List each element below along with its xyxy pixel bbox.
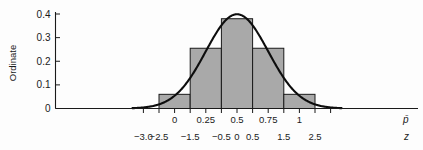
y-tick-label: 0 (45, 103, 51, 114)
x-axis-z-tick-labels: −3.0−2.5−1.5−0.500.51.52.5 (134, 131, 322, 142)
x-tick-label-z: 0.5 (246, 131, 259, 142)
histogram-bar (221, 19, 252, 109)
x-axis-title-z: z (403, 131, 409, 142)
sampling-distribution-figure: 00.10.20.30.4 00.250.50.751 −3.0−2.5−1.5… (0, 0, 423, 150)
x-tick-label-p: 0.25 (197, 114, 216, 125)
x-tick-label-p: 0.5 (230, 114, 243, 125)
bars-group (159, 19, 315, 109)
x-axis-minor-ticks (143, 109, 330, 114)
y-tick-label: 0.3 (37, 32, 51, 43)
x-axis-p-tick-labels: 00.250.50.751 (172, 114, 302, 125)
x-tick-label-z: 0 (234, 131, 239, 142)
y-tick-label: 0.4 (37, 9, 51, 20)
x-tick-label-p: 0 (172, 114, 177, 125)
x-tick-label-p: 1 (297, 114, 302, 125)
histogram-bar (253, 48, 284, 108)
y-tick-label: 0.1 (37, 79, 51, 90)
y-tick-label: 0.2 (37, 56, 51, 67)
histogram-bar (190, 48, 221, 108)
x-tick-label-z: −1.5 (181, 131, 200, 142)
x-tick-label-z: 2.5 (308, 131, 321, 142)
x-tick-label-p: 0.75 (259, 114, 278, 125)
x-tick-label-z: −2.5 (150, 131, 169, 142)
x-axis-title-p: p̄ (402, 114, 409, 125)
x-tick-label-z: −0.5 (212, 131, 231, 142)
x-tick-label-z: 1.5 (277, 131, 290, 142)
chart-canvas: 00.10.20.30.4 00.250.50.751 −3.0−2.5−1.5… (0, 0, 423, 150)
y-axis-title: Ordinate (7, 45, 18, 81)
y-axis-ticks: 00.10.20.30.4 (37, 9, 60, 115)
